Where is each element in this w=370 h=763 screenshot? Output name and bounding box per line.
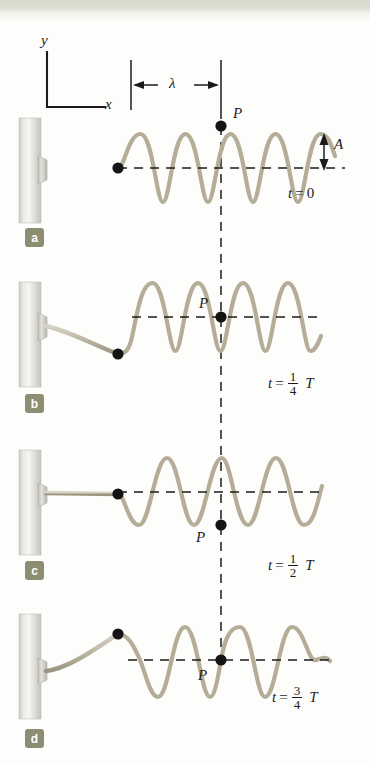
- wavelength-label: λ: [169, 76, 176, 91]
- time-period-b: T: [305, 376, 313, 391]
- time-numerator-c: 1: [288, 552, 299, 565]
- time-variable-a: t: [288, 186, 292, 201]
- time-variable-d: t: [272, 690, 276, 705]
- time-numerator-d: 3: [292, 684, 303, 697]
- time-label-b: t = 1 4 T: [268, 370, 313, 398]
- source-dot-b: [112, 348, 123, 359]
- time-variable-b: t: [268, 376, 272, 391]
- point-p-dot-c: [215, 519, 226, 530]
- point-p-dot-a: [215, 120, 226, 131]
- time-equals-a: =: [295, 186, 303, 201]
- time-variable-c: t: [268, 558, 272, 573]
- panel-c: [19, 450, 322, 555]
- time-numerator-b: 1: [288, 370, 299, 383]
- source-dot-d: [112, 628, 123, 639]
- figure-root: y x λ A P P P P t = 0 t = 1 4 T t = 1 2 …: [0, 0, 370, 763]
- time-label-d: t = 3 4 T: [272, 684, 317, 712]
- wave-figure-svg: [0, 0, 370, 763]
- time-value-a: 0: [307, 186, 315, 201]
- rope-segment-d: [46, 634, 118, 671]
- time-denominator-d: 4: [292, 697, 303, 711]
- coordinate-axes: [47, 52, 105, 107]
- source-dot-a: [112, 162, 123, 173]
- time-denominator-b: 4: [288, 383, 299, 397]
- point-p-dot-b: [215, 311, 226, 322]
- point-p-dot-d: [215, 654, 226, 665]
- panel-badge-c: c: [25, 561, 44, 580]
- time-fraction-c: 1 2: [288, 552, 299, 580]
- source-dot-c: [112, 488, 123, 499]
- point-p-label-a: P: [233, 106, 242, 121]
- time-fraction-d: 3 4: [292, 684, 303, 712]
- point-p-label-d: P: [198, 668, 207, 683]
- time-equals-b: =: [275, 376, 283, 391]
- panel-badge-d: d: [25, 729, 44, 748]
- axis-label-y: y: [41, 33, 48, 48]
- time-label-c: t = 1 2 T: [268, 552, 313, 580]
- amplitude-label: A: [334, 137, 343, 152]
- rope-segment-c: [46, 493, 118, 494]
- axis-label-x: x: [105, 97, 112, 112]
- panel-badge-b: b: [25, 394, 44, 413]
- panel-a: [19, 118, 345, 223]
- time-equals-d: =: [279, 690, 287, 705]
- point-p-label-b: P: [199, 296, 208, 311]
- panel-badge-a: a: [25, 228, 44, 247]
- wavelength-measure: [131, 60, 221, 110]
- time-denominator-c: 2: [288, 565, 299, 579]
- time-label-a: t = 0: [288, 186, 314, 201]
- time-period-c: T: [305, 558, 313, 573]
- time-period-d: T: [309, 690, 317, 705]
- rope-segment-b: [46, 326, 118, 354]
- point-p-label-c: P: [196, 530, 205, 545]
- time-equals-c: =: [275, 558, 283, 573]
- time-fraction-b: 1 4: [288, 370, 299, 398]
